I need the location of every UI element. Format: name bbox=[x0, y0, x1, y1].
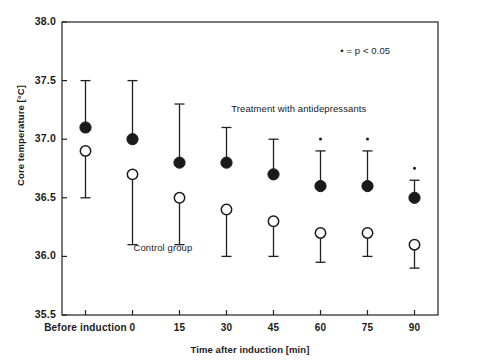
data-point-treatment[interactable] bbox=[268, 169, 279, 180]
data-point-control[interactable] bbox=[409, 239, 419, 249]
chart-figure: Core temperature [°C] Time after inducti… bbox=[0, 0, 496, 364]
plot-canvas bbox=[0, 0, 496, 364]
data-point-treatment[interactable] bbox=[127, 134, 138, 145]
data-point-treatment[interactable] bbox=[315, 180, 326, 191]
plot-frame bbox=[62, 22, 438, 315]
significance-asterisk bbox=[319, 137, 322, 140]
data-point-control[interactable] bbox=[268, 216, 278, 226]
data-point-control[interactable] bbox=[80, 146, 90, 156]
data-point-treatment[interactable] bbox=[409, 192, 420, 203]
data-point-treatment[interactable] bbox=[80, 122, 91, 133]
significance-asterisk bbox=[413, 167, 416, 170]
data-point-control[interactable] bbox=[362, 228, 372, 238]
data-point-treatment[interactable] bbox=[221, 157, 232, 168]
data-point-control[interactable] bbox=[127, 169, 137, 179]
data-point-treatment[interactable] bbox=[174, 157, 185, 168]
data-point-control[interactable] bbox=[174, 193, 184, 203]
data-point-treatment[interactable] bbox=[362, 180, 373, 191]
data-point-control[interactable] bbox=[221, 204, 231, 214]
data-point-control[interactable] bbox=[315, 228, 325, 238]
significance-asterisk bbox=[366, 137, 369, 140]
